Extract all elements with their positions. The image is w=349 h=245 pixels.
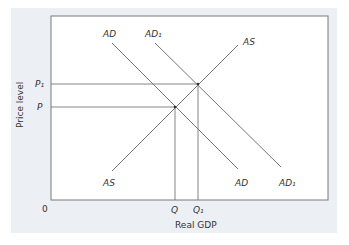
ad-label-top: AD [102, 29, 116, 39]
plot-area [51, 16, 328, 200]
as-label-top: AS [242, 37, 255, 47]
equilibrium-point-new [197, 83, 200, 86]
x-axis-title: Real GDP [175, 220, 217, 230]
ad-as-diagram: AD AD₁ AS AS AD AD₁ P₁ P Q Q₁ 0 Real GDP… [0, 0, 349, 245]
origin-label: 0 [42, 204, 48, 214]
q-tick-label: Q [171, 205, 178, 215]
as-label-bottom: AS [102, 178, 115, 188]
p1-tick-label: P₁ [35, 79, 44, 89]
q1-tick-label: Q₁ [193, 205, 204, 215]
y-axis-title: Price level [15, 82, 25, 128]
ad1-label-bottom: AD₁ [278, 178, 296, 188]
ad-label-bottom: AD [234, 178, 248, 188]
equilibrium-point-initial [174, 106, 177, 109]
ad1-label-top: AD₁ [144, 29, 162, 39]
p-tick-label: P [37, 102, 43, 112]
